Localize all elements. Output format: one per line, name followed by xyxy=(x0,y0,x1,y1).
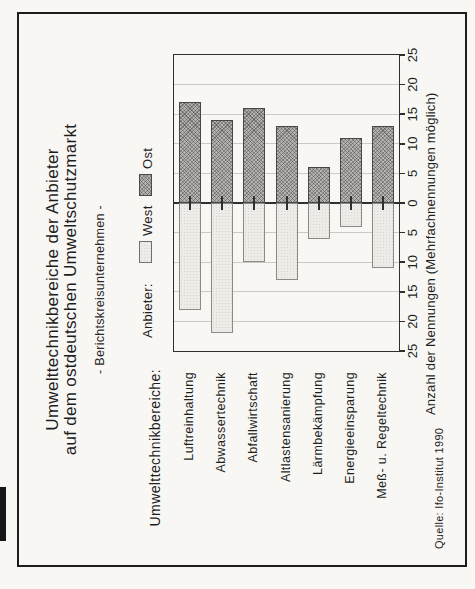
bar-ost-3 xyxy=(276,126,298,203)
legend-swatch-west xyxy=(139,241,152,263)
scan-artifact xyxy=(0,487,6,541)
legend-label-ost: Ost xyxy=(140,148,155,169)
category-tick xyxy=(350,196,352,210)
value-axis-title: Anzahl der Nennungen (Mehrfachnennungen … xyxy=(423,92,438,415)
bar-ost-6 xyxy=(372,126,394,203)
bar-west-0 xyxy=(179,203,201,310)
bar-west-3 xyxy=(276,203,298,280)
chart-title-line2: auf dem ostdeutschen Umweltschutzmarkt xyxy=(62,14,80,565)
category-axis-title: Umwelttechnikbereiche: xyxy=(147,369,163,565)
chart-subtitle: - Berichtskreisunternehmen - xyxy=(93,14,107,565)
legend-title: Anbieter: xyxy=(140,283,155,338)
legend-label-west: West xyxy=(140,205,155,236)
category-label: Abwassertechnik xyxy=(214,372,228,565)
value-tick-label: 5 xyxy=(405,158,420,188)
gridline xyxy=(174,291,399,292)
value-tick-label: 10 xyxy=(405,129,420,159)
bar-ost-2 xyxy=(243,108,265,203)
value-tick-label: 25 xyxy=(405,336,420,366)
category-label: Meß- u. Regeltechnik xyxy=(375,372,389,565)
category-label: Altlastensanierung xyxy=(279,372,293,565)
value-tick-label: 15 xyxy=(405,99,420,129)
category-tick xyxy=(286,196,288,210)
scanned-page: Umwelttechnikbereiche der Anbieter auf d… xyxy=(0,0,475,589)
bar-ost-0 xyxy=(179,102,201,203)
legend-swatch-ost xyxy=(139,174,152,196)
gridline xyxy=(174,114,399,115)
value-tick-label: 0 xyxy=(405,188,420,218)
bar-west-2 xyxy=(243,203,265,262)
bar-west-1 xyxy=(211,203,233,333)
value-tick-label: 15 xyxy=(405,277,420,307)
plot-area: 2520151050510152025 xyxy=(174,55,399,351)
category-label: Luftreinhaltung xyxy=(182,372,196,565)
category-tick xyxy=(253,196,255,210)
chart-frame: Umwelttechnikbereiche der Anbieter auf d… xyxy=(17,12,467,567)
category-label: Lärmbekämpfung xyxy=(311,372,325,565)
category-tick xyxy=(382,196,384,210)
value-tick-label: 5 xyxy=(405,218,420,248)
value-tick-label: 20 xyxy=(405,70,420,100)
category-tick xyxy=(221,196,223,210)
category-label: Energieeinsparung xyxy=(343,372,357,565)
bar-ost-1 xyxy=(211,120,233,203)
category-tick xyxy=(318,196,320,210)
gridline xyxy=(174,321,399,322)
gridline xyxy=(174,84,399,85)
value-tick-label: 10 xyxy=(405,247,420,277)
chart-title-line1: Umwelttechnikbereiche der Anbieter xyxy=(44,14,62,565)
bar-west-6 xyxy=(372,203,394,268)
value-tick-label: 20 xyxy=(405,306,420,336)
bar-ost-5 xyxy=(340,138,362,203)
category-label: Abfallwirtschaft xyxy=(246,372,260,565)
value-tick-label: 25 xyxy=(405,40,420,70)
source-note: Quelle: Ifo-Institut 1990 xyxy=(433,428,445,549)
category-tick xyxy=(189,196,191,210)
